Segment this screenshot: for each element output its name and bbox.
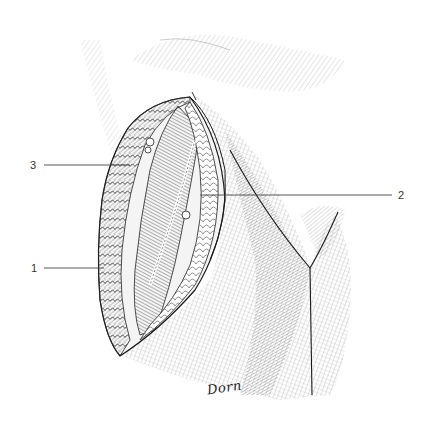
label-3: 3: [30, 159, 36, 171]
anatomical-illustration: [0, 0, 430, 426]
label-2: 2: [398, 189, 404, 201]
label-1: 1: [31, 262, 37, 274]
